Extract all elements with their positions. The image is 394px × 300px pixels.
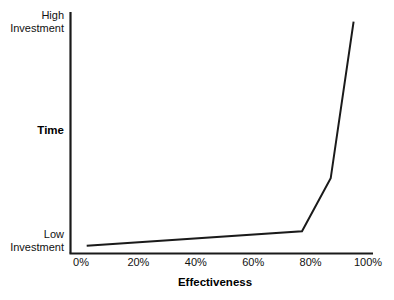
x-tick-label-100: 100% — [342, 256, 394, 268]
x-tick-label-80: 80% — [285, 256, 337, 268]
plot-area — [0, 0, 394, 300]
x-tick-label-0: 0% — [55, 256, 107, 268]
x-tick-label-20: 20% — [112, 256, 164, 268]
x-tick-label-60: 60% — [227, 256, 279, 268]
x-tick-label-40: 40% — [170, 256, 222, 268]
data-series-line — [87, 22, 354, 246]
chart-container: High Investment Time Low Investment 0%20… — [0, 0, 394, 300]
x-axis-title: Effectiveness — [70, 276, 360, 288]
